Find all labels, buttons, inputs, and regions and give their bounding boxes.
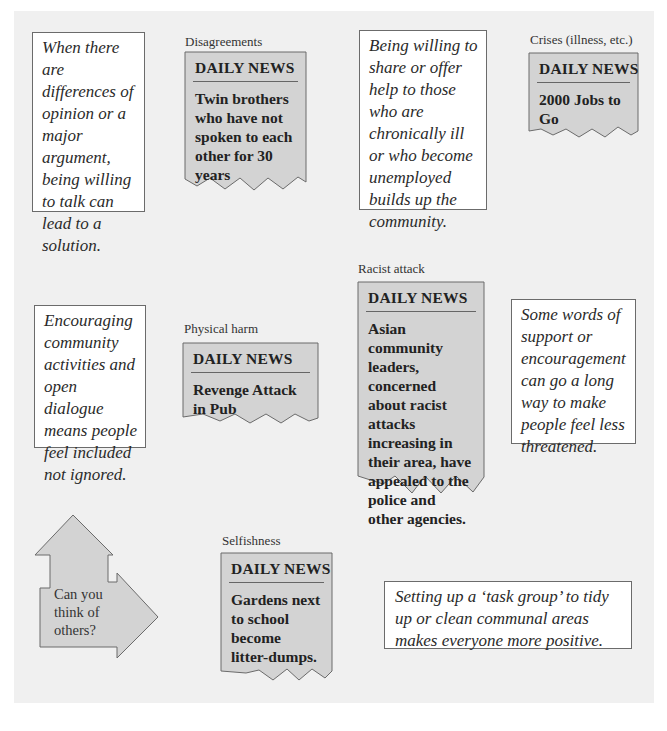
news-masthead: DAILY NEWS bbox=[191, 349, 310, 373]
news-headline: Twin brothers who have not spoken to eac… bbox=[193, 82, 298, 184]
news-masthead: DAILY NEWS bbox=[537, 59, 630, 83]
prompt-line: others? bbox=[54, 621, 103, 639]
news-caption-crises: Crises (illness, etc.) bbox=[530, 32, 633, 48]
news-masthead: DAILY NEWS bbox=[229, 559, 324, 583]
think-of-others-prompt: Can you think of others? bbox=[54, 585, 103, 639]
tip-box-support: Some words of support or encouragement c… bbox=[511, 299, 636, 444]
news-clipping-disagreements: DAILY NEWS Twin brothers who have not sp… bbox=[185, 52, 306, 197]
news-masthead: DAILY NEWS bbox=[193, 58, 298, 82]
news-clipping-racist: DAILY NEWS Asian community leaders, conc… bbox=[358, 282, 484, 504]
news-headline: Gardens next to school become litter-dum… bbox=[229, 583, 324, 666]
news-headline: Revenge Attack in Pub bbox=[191, 373, 310, 418]
tip-box-activities: Encouraging community activities and ope… bbox=[34, 305, 146, 448]
tip-box-talk: When there are differences of opinion or… bbox=[32, 32, 145, 212]
news-clipping-crises: DAILY NEWS 2000 Jobs to Go bbox=[529, 53, 638, 141]
tip-box-share: Being willing to share or offer help to … bbox=[359, 30, 487, 210]
news-masthead: DAILY NEWS bbox=[366, 288, 476, 312]
news-headline: Asian community leaders, concerned about… bbox=[366, 312, 476, 528]
news-clipping-physical: DAILY NEWS Revenge Attack in Pub bbox=[183, 343, 318, 428]
prompt-line: Can you bbox=[54, 585, 103, 603]
news-headline: 2000 Jobs to Go bbox=[537, 83, 630, 128]
tip-box-taskgroup: Setting up a ‘task group’ to tidy up or … bbox=[384, 581, 632, 649]
prompt-line: think of bbox=[54, 603, 103, 621]
news-caption-physical: Physical harm bbox=[184, 321, 258, 337]
news-clipping-selfishness: DAILY NEWS Gardens next to school become… bbox=[221, 553, 332, 683]
news-caption-disagreements: Disagreements bbox=[185, 34, 262, 50]
news-caption-racist: Racist attack bbox=[358, 261, 425, 277]
news-caption-selfishness: Selfishness bbox=[222, 533, 281, 549]
